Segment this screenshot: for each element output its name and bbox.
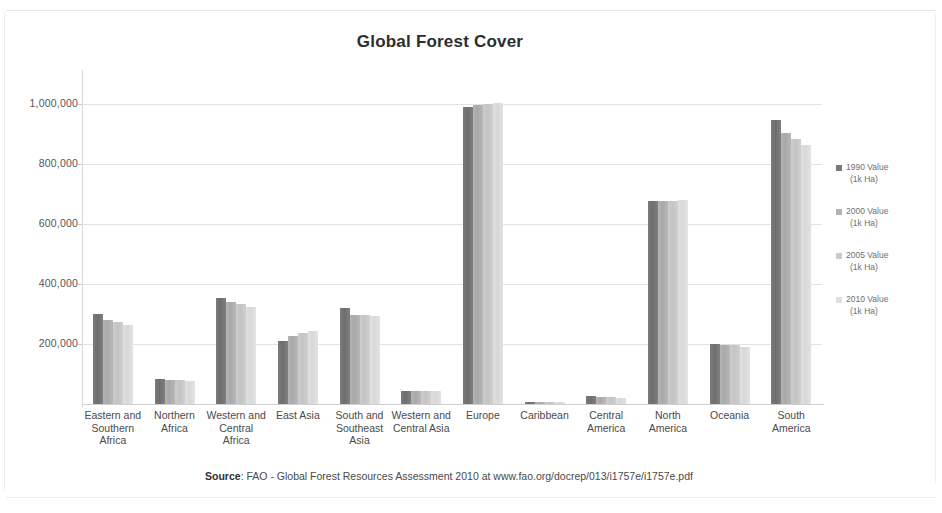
- x-axis-category-label: Eastern and Southern Africa: [82, 409, 144, 447]
- x-axis-category-label: Western and Central Asia: [390, 409, 452, 447]
- legend-label: 2000 Value(1k Ha): [846, 206, 888, 229]
- bar: [771, 120, 781, 404]
- chart-page: Global Forest Cover 1,000,000800,000600,…: [0, 0, 942, 513]
- legend-swatch-icon: [836, 253, 842, 259]
- legend-label: 1990 Value(1k Ha): [846, 162, 888, 185]
- x-axis-category-label: South and Southeast Asia: [329, 409, 391, 447]
- bar: [791, 139, 801, 404]
- bar: [801, 145, 811, 404]
- bar-group: [329, 74, 391, 404]
- bar: [535, 402, 545, 404]
- bar: [473, 105, 483, 404]
- x-axis-category-labels: Eastern and Southern AfricaNorthern Afri…: [82, 409, 822, 447]
- y-axis-tick-label: 600,000: [0, 217, 78, 229]
- bar: [113, 322, 123, 404]
- legend-swatch-icon: [836, 297, 842, 303]
- bar: [545, 402, 555, 404]
- bar: [596, 397, 606, 404]
- bar: [525, 402, 535, 404]
- legend-label: 2005 Value(1k Ha): [846, 250, 888, 273]
- x-axis-category-label: South America: [760, 409, 822, 447]
- bar: [288, 336, 298, 404]
- bar: [421, 391, 431, 404]
- legend-item[interactable]: 2010 Value(1k Ha): [836, 294, 940, 317]
- bar-group: [575, 74, 637, 404]
- bar: [123, 325, 133, 404]
- bar: [226, 302, 236, 404]
- y-axis-tick-label: 400,000: [0, 277, 78, 289]
- bar-group: [699, 74, 761, 404]
- bar: [93, 314, 103, 404]
- bar: [463, 107, 473, 404]
- bar-group: [637, 74, 699, 404]
- bar: [606, 397, 616, 404]
- y-axis-tick-label: 200,000: [0, 337, 78, 349]
- bar: [308, 331, 318, 404]
- source-note: Source: FAO - Global Forest Resources As…: [0, 470, 898, 482]
- bar-group: [267, 74, 329, 404]
- bar: [155, 379, 165, 405]
- bar: [781, 133, 791, 404]
- source-text: : FAO - Global Forest Resources Assessme…: [241, 470, 693, 482]
- bar: [730, 345, 740, 404]
- x-axis-category-label: Northern Africa: [144, 409, 206, 447]
- bar: [246, 307, 256, 405]
- legend-swatch-icon: [836, 209, 842, 215]
- bar: [648, 201, 658, 404]
- bar: [555, 402, 565, 404]
- bar: [370, 316, 380, 404]
- bar: [586, 396, 596, 404]
- bar-group: [82, 74, 144, 404]
- bar: [483, 104, 493, 404]
- bar: [720, 345, 730, 404]
- bar: [658, 201, 668, 404]
- bar: [401, 391, 411, 404]
- bar: [360, 315, 370, 404]
- bar-groups: [82, 74, 822, 404]
- bar: [185, 381, 195, 404]
- bar: [740, 347, 750, 404]
- bar-group: [390, 74, 452, 404]
- bar-group: [452, 74, 514, 404]
- legend-item[interactable]: 2005 Value(1k Ha): [836, 250, 940, 273]
- bar: [278, 341, 288, 404]
- bar-group: [205, 74, 267, 404]
- bar: [165, 380, 175, 404]
- y-axis-tick-label: 800,000: [0, 157, 78, 169]
- legend-item[interactable]: 1990 Value(1k Ha): [836, 162, 940, 185]
- bar: [103, 320, 113, 404]
- bar: [216, 298, 226, 404]
- bar: [175, 380, 185, 404]
- bar: [710, 344, 720, 404]
- y-axis-tick-label: 1,000,000: [0, 97, 78, 109]
- x-axis-category-label: Oceania: [699, 409, 761, 447]
- legend-label: 2010 Value(1k Ha): [846, 294, 888, 317]
- x-axis-category-label: Western and Central Africa: [205, 409, 267, 447]
- x-axis-line: [82, 404, 824, 405]
- bar-group: [144, 74, 206, 404]
- bar: [668, 201, 678, 404]
- x-axis-category-label: North America: [637, 409, 699, 447]
- x-axis-category-label: East Asia: [267, 409, 329, 447]
- bar: [616, 398, 626, 404]
- x-axis-category-label: Europe: [452, 409, 514, 447]
- bar: [236, 304, 246, 404]
- bar-group: [760, 74, 822, 404]
- legend-item[interactable]: 2000 Value(1k Ha): [836, 206, 940, 229]
- chart-legend: 1990 Value(1k Ha)2000 Value(1k Ha)2005 V…: [836, 162, 940, 338]
- bar: [411, 391, 421, 404]
- bar: [431, 391, 441, 404]
- bar: [678, 200, 688, 404]
- bar: [340, 308, 350, 404]
- x-axis-category-label: Central America: [575, 409, 637, 447]
- source-label: Source: [205, 470, 241, 482]
- legend-swatch-icon: [836, 165, 842, 171]
- bar: [298, 333, 308, 404]
- bar: [350, 315, 360, 404]
- x-axis-category-label: Caribbean: [514, 409, 576, 447]
- bar-group: [514, 74, 576, 404]
- bar: [493, 103, 503, 405]
- plot-wrapper: 1,000,000800,000600,000400,000200,000 Ea…: [0, 0, 942, 513]
